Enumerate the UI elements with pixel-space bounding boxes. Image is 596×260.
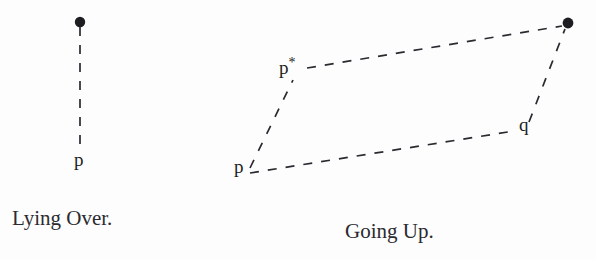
node-label-p-lying-over: p	[74, 150, 84, 169]
node-label-p-star-superscript: *	[289, 55, 296, 70]
node-label-p-lying-over-text: p	[74, 149, 84, 170]
panel-lying-over-graphics	[75, 17, 85, 146]
node-label-p-star: p*	[279, 58, 296, 77]
node-label-p-going-up: p	[234, 157, 244, 176]
panel-going-up-graphics	[250, 18, 573, 173]
node-label-p-going-up-text: p	[234, 156, 244, 177]
caption-going-up-text: Going Up.	[345, 219, 434, 243]
edge-p-to-pstar	[250, 80, 293, 168]
caption-lying-over: Lying Over.	[12, 208, 112, 229]
mathematical-diagram-figure: p Lying Over. p* q p Going Up.	[0, 0, 596, 260]
node-label-p-star-base: p	[279, 57, 289, 78]
edge-q-to-top-right-dot	[529, 29, 565, 122]
top-dot-node-icon	[75, 17, 85, 27]
caption-going-up: Going Up.	[345, 221, 434, 242]
caption-lying-over-text: Lying Over.	[12, 206, 112, 230]
node-label-q: q	[519, 115, 529, 134]
edge-pstar-to-top-right-dot	[307, 26, 562, 68]
edge-p-to-q	[250, 131, 514, 173]
node-label-q-text: q	[519, 114, 529, 135]
top-right-dot-node-icon	[563, 18, 574, 29]
